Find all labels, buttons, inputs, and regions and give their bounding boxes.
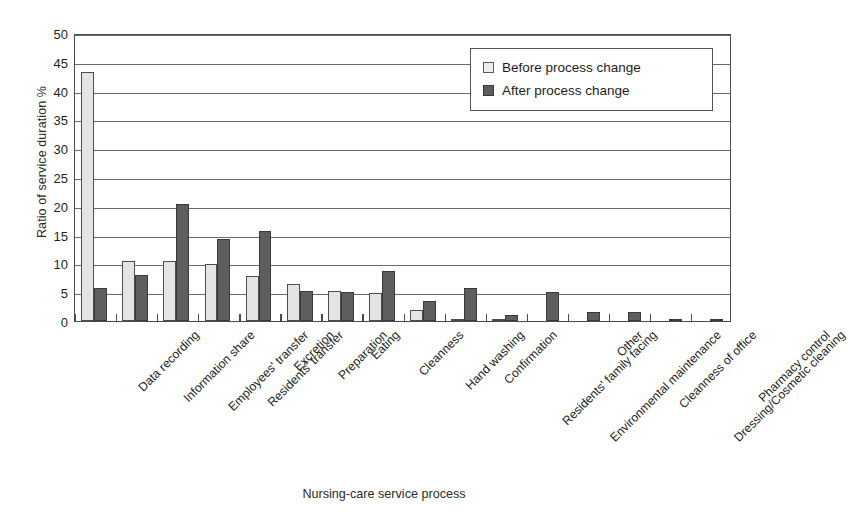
bar-group: [75, 35, 116, 321]
y-tick-label: 50: [30, 28, 68, 41]
bar-before: [122, 261, 135, 321]
x-axis-tickmark: [157, 314, 158, 321]
x-axis-tickmark: [527, 314, 528, 321]
y-tick-label: 30: [30, 143, 68, 156]
bar-before: [369, 293, 382, 321]
bar-after: [628, 312, 641, 321]
bar-before: [328, 291, 341, 321]
bar-before: [205, 264, 218, 321]
legend-label-before: Before process change: [502, 60, 641, 75]
x-axis-label: Cleanness: [416, 328, 467, 379]
x-axis-tickmark: [116, 314, 117, 321]
legend-item-after: After process change: [483, 79, 702, 102]
bar-group: [362, 35, 403, 321]
y-tick-label: 0: [30, 316, 68, 329]
bar-group: [280, 35, 321, 321]
dark-square-icon: [483, 85, 494, 96]
x-axis-label-text: Cleanness: [416, 328, 467, 379]
bar-after: [217, 239, 230, 321]
bar-group: [239, 35, 280, 321]
y-axis-tick-labels: 05101520253035404550: [30, 34, 68, 322]
bar-group: [321, 35, 362, 321]
bar-after: [505, 315, 518, 321]
bar-after: [135, 275, 148, 321]
bar-after: [423, 301, 436, 321]
bar-after: [176, 204, 189, 321]
bar-after: [382, 271, 395, 321]
bar-before: [81, 72, 94, 321]
x-axis-label: Pharmacy control: [755, 328, 832, 405]
bar-after: [259, 231, 272, 321]
x-axis-tickmark: [280, 314, 281, 321]
bar-group: [116, 35, 157, 321]
y-tick-label: 25: [30, 172, 68, 185]
bar-before: [451, 319, 464, 321]
bar-after: [587, 312, 600, 321]
bar-after: [341, 292, 354, 321]
bar-before: [287, 284, 300, 321]
x-axis-tickmark: [650, 314, 651, 321]
bar-after: [669, 319, 682, 321]
x-axis-tickmark: [198, 314, 199, 321]
bar-group: [404, 35, 445, 321]
y-tick-label: 40: [30, 85, 68, 98]
light-square-icon: [483, 62, 494, 73]
legend-label-after: After process change: [502, 83, 630, 98]
x-axis-tickmark: [609, 314, 610, 321]
bar-before: [246, 276, 259, 321]
x-axis-tickmark: [445, 314, 446, 321]
x-axis-label-text: Pharmacy control: [755, 328, 832, 405]
legend: Before process change After process chan…: [470, 48, 713, 111]
y-tick-label: 10: [30, 258, 68, 271]
bar-before: [492, 319, 505, 321]
bar-after: [710, 319, 723, 321]
x-axis-tickmark: [568, 314, 569, 321]
bar-after: [300, 291, 313, 321]
x-axis-tickmark: [486, 314, 487, 321]
y-tick-label: 45: [30, 56, 68, 69]
bar-after: [94, 288, 107, 321]
x-axis-category-labels: Data recordingInformation shareEmployees…: [74, 322, 731, 482]
legend-item-before: Before process change: [483, 56, 702, 79]
x-axis-title: Nursing-care service process: [0, 487, 768, 501]
y-tick-label: 5: [30, 287, 68, 300]
x-axis-tickmark: [321, 314, 322, 321]
y-tick-label: 20: [30, 200, 68, 213]
bar-after: [464, 288, 477, 321]
x-axis-tickmark: [404, 314, 405, 321]
x-axis-tickmark: [75, 314, 76, 321]
x-axis-tickmark: [691, 314, 692, 321]
bar-after: [546, 292, 559, 321]
bar-before: [163, 261, 176, 321]
bar-group: [157, 35, 198, 321]
x-axis-tickmark: [362, 314, 363, 321]
bar-group: [198, 35, 239, 321]
bar-before: [410, 310, 423, 321]
y-tick-label: 35: [30, 114, 68, 127]
y-tick-label: 15: [30, 229, 68, 242]
x-axis-tickmark: [239, 314, 240, 321]
